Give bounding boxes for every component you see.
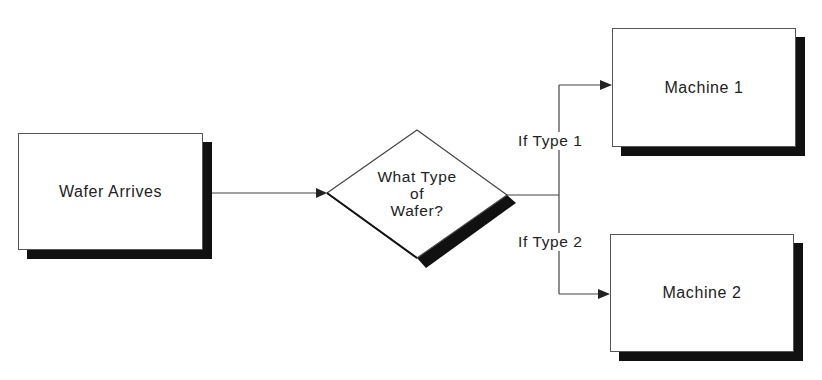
edge-label-type2: If Type 2	[516, 233, 585, 251]
edge-label-type1: If Type 1	[516, 132, 585, 150]
arrowhead-icon	[316, 188, 327, 198]
node-label: Machine 2	[662, 284, 741, 302]
node-machine-1: Machine 1	[612, 28, 796, 147]
node-machine-2: Machine 2	[610, 234, 794, 352]
arrowhead-icon	[600, 80, 612, 90]
node-label: Machine 1	[664, 79, 743, 97]
node-label: Wafer Arrives	[59, 183, 162, 201]
node-wafer-arrives: Wafer Arrives	[18, 133, 203, 250]
arrowhead-icon	[598, 289, 610, 299]
decision-label: What Type of Wafer?	[357, 168, 477, 219]
